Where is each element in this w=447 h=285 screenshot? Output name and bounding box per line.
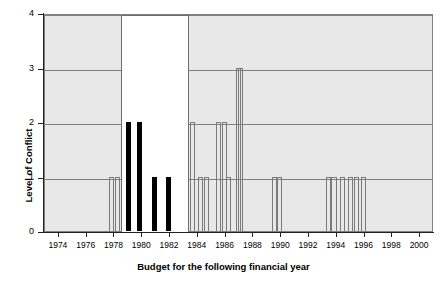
bar bbox=[126, 122, 131, 231]
y-tick-2 bbox=[38, 123, 43, 124]
x-tick-label: 2000 bbox=[399, 240, 439, 250]
bar bbox=[348, 177, 353, 232]
y-tick-4 bbox=[38, 14, 43, 15]
bar bbox=[190, 122, 195, 231]
bar bbox=[326, 177, 331, 232]
bar bbox=[115, 177, 120, 232]
x-tick-1976 bbox=[86, 232, 87, 237]
bar bbox=[166, 177, 171, 232]
y-tick-0 bbox=[38, 232, 43, 233]
bar bbox=[331, 177, 336, 232]
bar bbox=[216, 122, 221, 231]
x-tick-1982 bbox=[169, 232, 170, 237]
bar bbox=[272, 177, 277, 232]
bar bbox=[238, 68, 243, 232]
x-tick-1992 bbox=[308, 232, 309, 237]
y-axis-title: Level of Conflict bbox=[23, 96, 34, 236]
bar bbox=[109, 177, 114, 232]
x-tick-1980 bbox=[141, 232, 142, 237]
x-axis-line bbox=[43, 232, 434, 233]
x-tick-1994 bbox=[336, 232, 337, 237]
x-tick-1978 bbox=[113, 232, 114, 237]
y-axis-line bbox=[43, 13, 44, 233]
y-tick-label: 4 bbox=[0, 9, 34, 18]
x-tick-2000 bbox=[419, 232, 420, 237]
bar bbox=[204, 177, 209, 232]
chart-container: 01234 1974197619781980198219841986198819… bbox=[0, 0, 447, 285]
bar bbox=[361, 177, 366, 232]
bar bbox=[354, 177, 359, 232]
bar bbox=[277, 177, 282, 232]
bar bbox=[226, 177, 231, 232]
x-tick-1990 bbox=[280, 232, 281, 237]
x-tick-1998 bbox=[391, 232, 392, 237]
x-tick-1996 bbox=[364, 232, 365, 237]
y-tick-1 bbox=[38, 178, 43, 179]
bar bbox=[340, 177, 345, 232]
y-tick-3 bbox=[38, 69, 43, 70]
bar bbox=[152, 177, 157, 232]
x-axis-title: Budget for the following financial year bbox=[0, 261, 447, 272]
bar bbox=[137, 122, 142, 231]
x-tick-1988 bbox=[252, 232, 253, 237]
plot-area bbox=[44, 14, 433, 232]
x-tick-1974 bbox=[58, 232, 59, 237]
x-tick-1986 bbox=[225, 232, 226, 237]
bar bbox=[198, 177, 203, 232]
y-axis-title-wrap: Level of Conflict bbox=[2, 60, 22, 180]
gridline-y-4 bbox=[45, 15, 432, 16]
x-tick-1984 bbox=[197, 232, 198, 237]
